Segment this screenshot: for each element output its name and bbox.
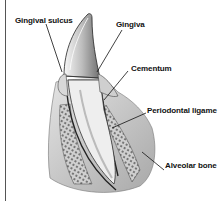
label-cementum: Cementum — [131, 64, 172, 73]
label-periodontal-ligament: Periodontal ligame — [147, 106, 217, 115]
label-gingiva: Gingiva — [116, 20, 145, 29]
label-gingival-sulcus: Gingival sulcus — [15, 16, 73, 25]
leader-gingiva — [97, 30, 122, 72]
label-alveolar-bone: Alveolar bone — [165, 161, 217, 170]
tooth-illustration — [0, 0, 218, 201]
leader-gingival-sulcus — [46, 24, 62, 72]
